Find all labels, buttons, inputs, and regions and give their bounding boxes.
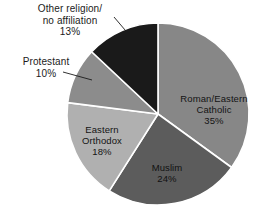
pie-label-value: 24% [132,173,202,184]
pie-label-value: 18% [62,146,142,157]
pie-label-value: 13% [16,26,124,38]
pie-label-eastern-orthodox: Eastern Orthodox 18% [62,124,142,157]
pie-label-line1: Eastern [62,124,142,135]
pie-label-value: 10% [4,68,88,80]
pie-label-other-religion: Other religion/ no affiliation 13% [16,3,124,38]
pie-label-line2: no affiliation [16,15,124,27]
pie-label-value: 35% [168,115,260,126]
pie-label-line1: Roman/Eastern [168,93,260,104]
pie-label-muslim: Muslim 24% [132,162,202,184]
pie-chart: Roman/Eastern Catholic 35% Muslim 24% Ea… [0,0,267,220]
pie-label-line2: Catholic [168,104,260,115]
pie-label-line1: Muslim [132,162,202,173]
pie-label-line1: Protestant [4,56,88,68]
pie-label-roman-eastern-catholic: Roman/Eastern Catholic 35% [168,93,260,126]
pie-label-protestant: Protestant 10% [4,56,88,79]
pie-label-line2: Orthodox [62,135,142,146]
pie-label-line1: Other religion/ [16,3,124,15]
